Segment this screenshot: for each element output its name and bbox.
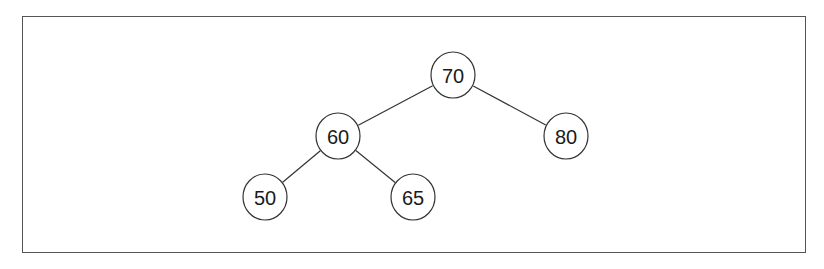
- node-label: 80: [555, 126, 577, 148]
- tree-node-80: 80: [544, 113, 588, 159]
- node-label: 50: [254, 187, 276, 209]
- tree-diagram: 7060805065: [0, 0, 824, 269]
- tree-node-60: 60: [316, 113, 360, 159]
- node-label: 60: [327, 126, 349, 148]
- node-label: 65: [402, 187, 424, 209]
- edge-70-80: [473, 86, 546, 125]
- tree-node-70: 70: [431, 52, 475, 98]
- tree-node-50: 50: [243, 174, 287, 220]
- edge-70-60: [358, 86, 432, 125]
- tree-nodes: 7060805065: [243, 52, 588, 220]
- node-label: 70: [442, 65, 464, 87]
- edge-60-50: [283, 151, 321, 183]
- tree-node-65: 65: [391, 174, 435, 220]
- edge-60-65: [356, 151, 395, 183]
